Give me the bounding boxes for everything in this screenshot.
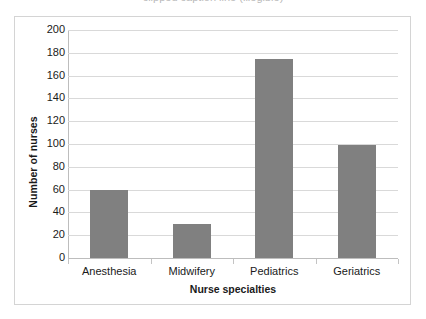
x-axis-ticks (68, 259, 399, 264)
y-tick-label: 80 (25, 161, 65, 172)
x-tick-label-midwifery: Midwifery (151, 265, 234, 277)
x-axis-tick-labels: AnesthesiaMidwiferyPediatricsGeriatrics (68, 265, 398, 283)
bar-pediatrics[interactable] (255, 59, 293, 259)
bar-chart: Number of nurses 02040608010012014016018… (14, 16, 411, 305)
x-tick-label-anesthesia: Anesthesia (68, 265, 151, 277)
y-tick-label: 60 (25, 184, 65, 195)
gridline-120 (68, 121, 398, 122)
x-axis-title: Nurse specialties (68, 283, 398, 295)
x-tick (68, 259, 69, 264)
gridline-200 (68, 30, 398, 31)
x-tick (316, 259, 317, 264)
x-tick-label-pediatrics: Pediatrics (233, 265, 316, 277)
x-tick (233, 259, 234, 264)
y-tick-label: 180 (25, 47, 65, 58)
gridline-140 (68, 98, 398, 99)
bar-midwifery[interactable] (173, 224, 211, 258)
y-tick-label: 0 (25, 252, 65, 263)
top-caption-text: clipped caption line (illegible) (0, 0, 426, 3)
gridline-160 (68, 76, 398, 77)
x-tick-label-geriatrics: Geriatrics (316, 265, 399, 277)
bar-anesthesia[interactable] (90, 190, 128, 258)
y-tick-label: 40 (25, 206, 65, 217)
y-axis-tick-labels: 020406080100120140160180200 (21, 30, 65, 258)
x-tick (151, 259, 152, 264)
gridline-180 (68, 53, 398, 54)
x-tick (398, 259, 399, 264)
y-tick-label: 100 (25, 138, 65, 149)
plot-area (68, 30, 398, 258)
y-tick-label: 200 (25, 24, 65, 35)
top-caption-strip: clipped caption line (illegible) (0, 0, 426, 13)
y-tick-label: 20 (25, 229, 65, 240)
bar-geriatrics[interactable] (338, 145, 376, 258)
y-tick-label: 140 (25, 92, 65, 103)
y-tick-label: 160 (25, 70, 65, 81)
y-tick-label: 120 (25, 115, 65, 126)
